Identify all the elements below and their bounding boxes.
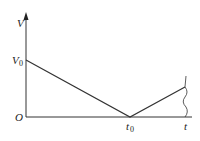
origin-label: O <box>15 111 23 123</box>
velocity-time-diagram: V V 0 O t 0 t <box>0 0 200 141</box>
velocity-line <box>26 60 185 117</box>
x-axis-label: t <box>184 120 188 132</box>
v0-subscript: 0 <box>19 59 23 68</box>
t0-subscript: 0 <box>130 125 134 134</box>
y-axis-arrow-icon <box>24 12 29 20</box>
break-squiggle <box>183 76 187 117</box>
y-axis-label: V <box>17 17 25 29</box>
